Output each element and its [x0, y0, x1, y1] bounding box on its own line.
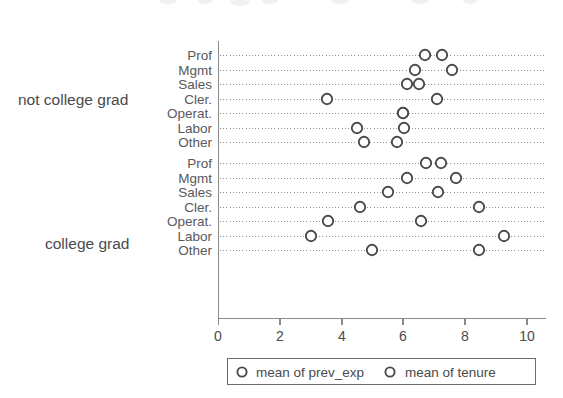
- data-point-prev-exp-cg-operat: [323, 216, 333, 226]
- group-label-college-grad: college grad: [45, 235, 129, 252]
- dot-plot-chart: 0 2 4 6 8 10 Prof Mgmt Sales Cler. Opera…: [0, 0, 563, 398]
- group-label-not-college-grad: not college grad: [18, 91, 128, 108]
- data-point-prev-exp-ncg-sales: [402, 79, 412, 89]
- data-point-tenure-ncg-mgmt: [447, 65, 457, 75]
- data-point-prev-exp-ncg-cler: [322, 94, 332, 104]
- data-point-tenure-cg-sales: [433, 187, 443, 197]
- legend-marker-prev-exp: [237, 367, 246, 376]
- cat-label-cg-other: Other: [178, 243, 212, 258]
- data-point-prev-exp-ncg-prof: [420, 50, 430, 60]
- data-point-tenure-ncg-cler: [432, 94, 442, 104]
- data-point-prev-exp-cg-cler: [355, 202, 365, 212]
- data-point-tenure-ncg-operat: [398, 108, 408, 118]
- legend: mean of prev_exp mean of tenure: [228, 359, 536, 385]
- axes: [218, 41, 546, 325]
- cat-label-cg-mgmt: Mgmt: [178, 171, 212, 186]
- x-tick-label-10: 10: [519, 328, 535, 344]
- data-point-tenure-cg-mgmt: [451, 173, 461, 183]
- cat-label-ncg-mgmt: Mgmt: [178, 63, 212, 78]
- plot-canvas: 0 2 4 6 8 10 Prof Mgmt Sales Cler. Opera…: [0, 0, 563, 398]
- x-tick-label-4: 4: [338, 328, 346, 344]
- legend-marker-tenure: [385, 367, 394, 376]
- data-point-prev-exp-ncg-labor: [352, 123, 362, 133]
- cropped-title-remnant: [159, 0, 477, 6]
- cat-label-ncg-cler: Cler.: [184, 92, 212, 107]
- x-tick-label-0: 0: [214, 328, 222, 344]
- data-point-tenure-ncg-other: [392, 137, 402, 147]
- cat-label-ncg-sales: Sales: [178, 77, 212, 92]
- data-point-prev-exp-cg-labor: [306, 231, 316, 241]
- cat-label-cg-labor: Labor: [177, 229, 212, 244]
- x-axis-tick-labels: 0 2 4 6 8 10: [214, 328, 535, 344]
- cat-label-cg-cler: Cler.: [184, 200, 212, 215]
- legend-label-prev-exp: mean of prev_exp: [256, 365, 364, 380]
- y-axis-category-labels-college-grad: Prof Mgmt Sales Cler. Operat. Labor Othe…: [167, 156, 213, 258]
- x-tick-label-2: 2: [276, 328, 284, 344]
- group-labels: not college grad college grad: [18, 91, 129, 252]
- cat-label-cg-sales: Sales: [178, 185, 212, 200]
- data-point-tenure-cg-prof: [436, 158, 446, 168]
- data-point-prev-exp-ncg-mgmt: [410, 65, 420, 75]
- x-tick-label-6: 6: [399, 328, 407, 344]
- x-tick-label-8: 8: [461, 328, 469, 344]
- data-point-prev-exp-cg-prof: [421, 158, 431, 168]
- cat-label-cg-operat: Operat.: [167, 214, 212, 229]
- cat-label-ncg-other: Other: [178, 135, 212, 150]
- data-point-tenure-cg-cler: [474, 202, 484, 212]
- data-point-tenure-cg-labor: [499, 231, 509, 241]
- data-point-prev-exp-cg-other: [367, 245, 377, 255]
- data-point-prev-exp-cg-mgmt: [402, 173, 412, 183]
- cat-label-ncg-operat: Operat.: [167, 106, 212, 121]
- data-point-tenure-cg-operat: [416, 216, 426, 226]
- cat-label-ncg-labor: Labor: [177, 121, 212, 136]
- gridlines: [220, 55, 545, 250]
- legend-label-tenure: mean of tenure: [405, 365, 496, 380]
- cat-label-ncg-prof: Prof: [187, 48, 212, 63]
- data-point-prev-exp-cg-sales: [383, 187, 393, 197]
- data-point-prev-exp-ncg-other: [359, 137, 369, 147]
- data-point-tenure-cg-other: [474, 245, 484, 255]
- data-point-tenure-ncg-labor: [399, 123, 409, 133]
- data-point-tenure-ncg-sales: [414, 79, 424, 89]
- data-point-tenure-ncg-prof: [437, 50, 447, 60]
- series-mean-of-prev-exp: [306, 50, 431, 255]
- y-axis-category-labels-not-college-grad: Prof Mgmt Sales Cler. Operat. Labor Othe…: [167, 48, 213, 150]
- cat-label-cg-prof: Prof: [187, 156, 212, 171]
